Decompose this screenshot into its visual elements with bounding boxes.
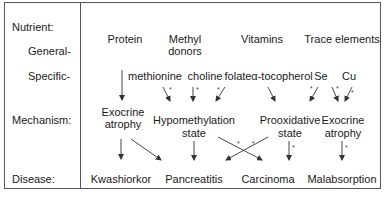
svg-text:*: * xyxy=(310,85,313,92)
svg-text:*: * xyxy=(252,140,255,147)
svg-text:*: * xyxy=(336,85,339,92)
svg-text:*: * xyxy=(196,86,199,93)
svg-text:*: * xyxy=(217,86,220,93)
arrow-exocrine-pancreatitis xyxy=(131,139,161,160)
svg-text:*: * xyxy=(169,86,172,93)
svg-text:*: * xyxy=(292,144,295,151)
svg-text:*: * xyxy=(237,140,240,147)
arrows-layer: * * * * * * * * * * xyxy=(0,0,388,197)
svg-text:*: * xyxy=(345,144,348,151)
arrow-hypo-carcinoma xyxy=(218,137,262,160)
arrow-tocopherol-proox xyxy=(268,87,275,101)
svg-text:*: * xyxy=(351,89,354,96)
arrow-proox-pancreatitis xyxy=(226,137,268,160)
